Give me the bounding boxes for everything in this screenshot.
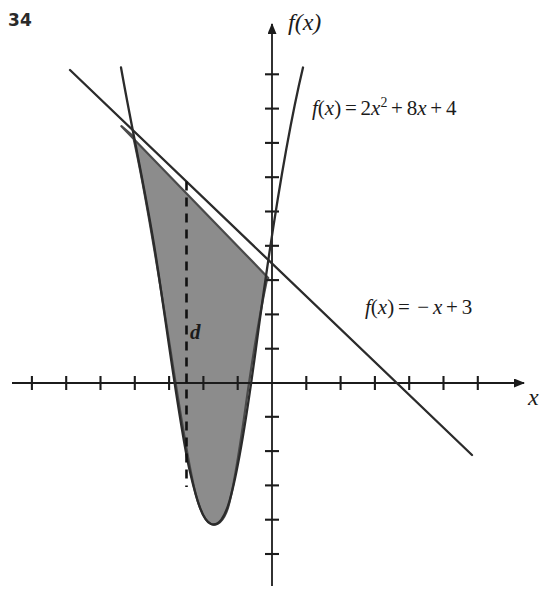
y-axis-label: f(x) xyxy=(288,10,321,34)
linear-function-label: f(x)=−x+3 xyxy=(365,297,472,318)
distance-label: d xyxy=(190,322,201,343)
x-axis-label: x xyxy=(528,385,539,409)
problem-number: 34 xyxy=(8,12,32,29)
linear-curve xyxy=(70,70,472,455)
figure-root: 34 f(x) x f(x)=2x2+8x+4 f(x)=−x+3 d xyxy=(0,0,553,600)
quadratic-function-label: f(x)=2x2+8x+4 xyxy=(312,96,456,119)
